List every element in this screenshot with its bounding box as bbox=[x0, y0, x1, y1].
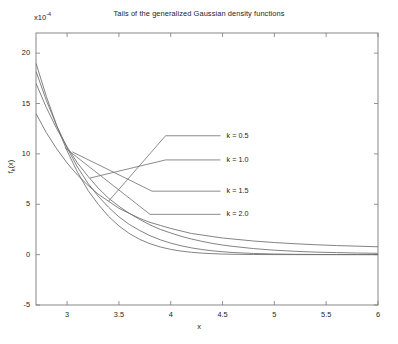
axis-ticks bbox=[36, 33, 378, 305]
annotation-leader-lines bbox=[65, 136, 220, 215]
x-tick-label: 5.5 bbox=[311, 310, 341, 319]
y-tick-label: 20 bbox=[6, 48, 30, 57]
y-tick-label: 15 bbox=[6, 99, 30, 108]
plot-canvas bbox=[0, 0, 398, 344]
y-axis-label-subscript: k bbox=[9, 168, 15, 171]
y-tick-label: 0 bbox=[6, 250, 30, 259]
x-tick-label: 4.5 bbox=[208, 310, 238, 319]
curve-k-0-5 bbox=[36, 114, 378, 247]
x-tick-label: 3 bbox=[52, 310, 82, 319]
y-tick-label: -5 bbox=[6, 300, 30, 309]
x-tick-label: 5 bbox=[259, 310, 289, 319]
leader-line-2 bbox=[90, 160, 221, 178]
series-annotation-1: k = 0.5 bbox=[227, 131, 249, 140]
series-annotation-3: k = 1.5 bbox=[227, 186, 249, 195]
x-tick-label: 4 bbox=[156, 310, 186, 319]
x-tick-label: 6 bbox=[363, 310, 393, 319]
curve-k-1-5 bbox=[36, 71, 378, 254]
chart-figure: Tails of the generalized Gaussian densit… bbox=[0, 0, 398, 344]
x-axis-label: x bbox=[0, 322, 398, 331]
curve-k-1-0 bbox=[36, 83, 378, 253]
y-axis-label-suffix: (x) bbox=[6, 160, 15, 169]
series-annotation-2: k = 1.0 bbox=[227, 155, 249, 164]
x-tick-label: 3.5 bbox=[104, 310, 134, 319]
y-axis-label: fk(x) bbox=[6, 145, 15, 189]
leader-line-4 bbox=[65, 148, 220, 214]
axes-frame bbox=[36, 33, 378, 305]
y-tick-label: 5 bbox=[6, 199, 30, 208]
series-annotation-4: k = 2.0 bbox=[227, 209, 249, 218]
